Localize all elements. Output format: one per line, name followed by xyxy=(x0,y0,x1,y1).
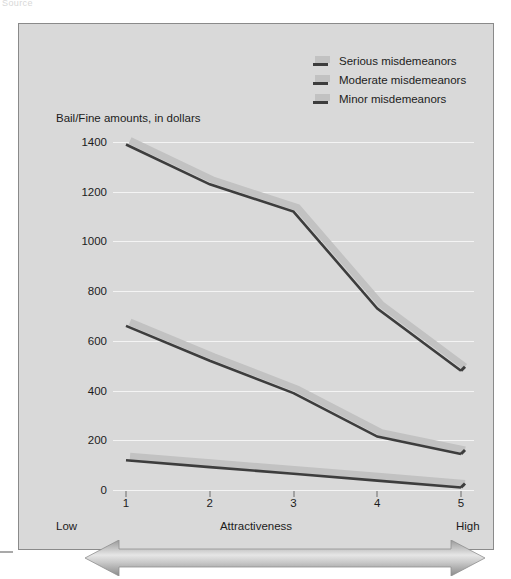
series-line-1[interactable] xyxy=(126,145,461,371)
x-axis-tick-label: 5 xyxy=(458,497,464,509)
corner-dash-mark xyxy=(0,551,13,553)
x-axis-tick-label: 1 xyxy=(123,497,129,509)
series-shadow-band xyxy=(130,322,465,450)
x-axis-title: Attractiveness xyxy=(19,520,493,532)
y-axis-tick-label: 1000 xyxy=(81,235,107,247)
series-line-3[interactable] xyxy=(126,460,461,487)
low-to-high-range-arrow-icon xyxy=(85,540,485,576)
x-axis-tick-label: 3 xyxy=(290,497,296,509)
x-axis-high-label: High xyxy=(456,520,480,532)
x-axis-low-label: Low xyxy=(56,520,77,532)
series-shadow-band xyxy=(130,456,465,483)
series-lines xyxy=(113,136,474,496)
y-axis-tick-label: 1200 xyxy=(81,186,107,198)
legend-item-label: Moderate misdemeanors xyxy=(339,74,466,86)
plot-area xyxy=(113,136,474,496)
x-axis-tick-label: 4 xyxy=(374,497,380,509)
y-axis-tick-label: 200 xyxy=(88,434,107,446)
y-axis-tick-label: 1400 xyxy=(81,136,107,148)
legend-swatch-icon xyxy=(313,94,330,104)
y-axis-tick-label: 800 xyxy=(88,285,107,297)
legend-item-moderate[interactable]: Moderate misdemeanors xyxy=(313,70,493,89)
y-axis-tick-labels: 0200400600800100012001400 xyxy=(47,136,107,496)
chart-legend: Serious misdemeanors Moderate misdemeano… xyxy=(313,51,493,108)
y-axis-title: Bail/Fine amounts, in dollars xyxy=(56,112,200,124)
y-axis-tick-label: 0 xyxy=(101,484,107,496)
y-axis-tick-label: 400 xyxy=(88,385,107,397)
top-caption: Source xyxy=(2,0,33,8)
series-shadow-band xyxy=(130,141,465,367)
legend-item-minor[interactable]: Minor misdemeanors xyxy=(313,89,493,108)
legend-item-label: Serious misdemeanors xyxy=(339,55,457,67)
chart-figure-frame: Serious misdemeanors Moderate misdemeano… xyxy=(18,23,494,550)
legend-swatch-icon xyxy=(313,75,330,85)
legend-item-serious[interactable]: Serious misdemeanors xyxy=(313,51,493,70)
x-axis-tick-label: 2 xyxy=(207,497,213,509)
legend-item-label: Minor misdemeanors xyxy=(339,93,446,105)
y-axis-tick-label: 600 xyxy=(88,335,107,347)
legend-swatch-icon xyxy=(313,56,330,66)
